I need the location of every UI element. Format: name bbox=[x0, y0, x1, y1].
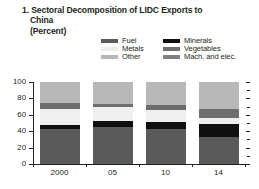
legend-swatch-metals bbox=[101, 47, 118, 51]
title-line-2: China bbox=[22, 15, 234, 25]
legend-swatch-minerals bbox=[163, 39, 180, 43]
bar-segment-metals bbox=[40, 109, 80, 125]
legend-swatch-vegetables bbox=[163, 47, 180, 51]
bar-segment-fuel bbox=[199, 137, 239, 164]
legend-swatch-fuel bbox=[101, 39, 118, 43]
bar-05[interactable] bbox=[93, 82, 133, 164]
bar-segment-vegetables bbox=[40, 103, 80, 110]
x-tick-label: 05 bbox=[87, 168, 139, 177]
y-tick-label: 20 bbox=[2, 144, 26, 152]
bar-segment-metals bbox=[199, 118, 239, 124]
bar-segment-other bbox=[146, 82, 186, 105]
legend-item-other[interactable]: Other bbox=[101, 53, 163, 61]
chart-legend: Fuel Minerals Metals Vegetables Other Ma… bbox=[101, 37, 257, 61]
title-units: (Percent) bbox=[22, 26, 234, 36]
y-tick-mark-right bbox=[246, 98, 250, 99]
y-tick-mark-right bbox=[246, 115, 250, 116]
bar-10[interactable] bbox=[146, 82, 186, 164]
legend-swatch-other bbox=[101, 55, 118, 59]
bar-segment-vegetables bbox=[146, 105, 186, 110]
y-tick-label: 0 bbox=[2, 160, 26, 168]
x-tick-mark bbox=[86, 164, 87, 167]
legend-swatch-mach-and-elec bbox=[163, 55, 180, 59]
legend-label-other: Other bbox=[122, 53, 141, 61]
y-tick-label: 40 bbox=[2, 127, 26, 135]
x-tick-mark bbox=[139, 164, 140, 167]
x-tick-label: 14 bbox=[193, 168, 245, 177]
bar-segment-metals bbox=[93, 107, 133, 121]
title-line-1: 1. Sectoral Decomposition of LIDC Export… bbox=[22, 5, 234, 15]
bar-segment-metals bbox=[146, 110, 186, 122]
bar-2000[interactable] bbox=[40, 82, 80, 164]
figure-title: 1. Sectoral Decomposition of LIDC Export… bbox=[22, 5, 234, 36]
bar-segment-minerals bbox=[93, 121, 133, 128]
x-tick-mark bbox=[192, 164, 193, 167]
bar-segment-other bbox=[199, 82, 239, 109]
x-tick-mark bbox=[245, 164, 246, 167]
y-tick-mark-right bbox=[246, 148, 250, 149]
plot-area bbox=[33, 82, 245, 164]
y-tick-label: 100 bbox=[2, 78, 26, 86]
bar-segment-fuel bbox=[146, 129, 186, 164]
legend-label-mach-and-elec: Mach. and elec. bbox=[184, 53, 236, 61]
x-tick-label: 10 bbox=[140, 168, 192, 177]
y-tick-mark-right bbox=[246, 82, 250, 83]
y-minor-tick-right bbox=[247, 107, 250, 108]
x-tick-mark bbox=[33, 164, 34, 167]
bar-group bbox=[33, 82, 245, 164]
y-minor-tick-right bbox=[247, 139, 250, 140]
bar-14[interactable] bbox=[199, 82, 239, 164]
y-minor-tick-right bbox=[247, 156, 250, 157]
y-tick-label: 60 bbox=[2, 111, 26, 119]
bar-segment-minerals bbox=[146, 122, 186, 129]
bar-segment-minerals bbox=[40, 125, 80, 128]
bar-segment-other bbox=[40, 82, 80, 103]
y-tick-label: 80 bbox=[2, 94, 26, 102]
bar-segment-other bbox=[93, 82, 133, 104]
x-tick-label: 2000 bbox=[34, 168, 86, 177]
y-tick-mark-right bbox=[246, 164, 250, 165]
y-tick-mark-right bbox=[246, 131, 250, 132]
bar-segment-vegetables bbox=[93, 104, 133, 106]
figure-panel: 1. Sectoral Decomposition of LIDC Export… bbox=[0, 0, 259, 189]
y-minor-tick-right bbox=[247, 90, 250, 91]
bar-segment-minerals bbox=[199, 124, 239, 137]
legend-item-mach-and-elec[interactable]: Mach. and elec. bbox=[163, 53, 257, 61]
bar-segment-fuel bbox=[40, 129, 80, 164]
y-minor-tick-right bbox=[247, 123, 250, 124]
bar-segment-vegetables bbox=[199, 109, 239, 118]
bar-segment-fuel bbox=[93, 127, 133, 164]
